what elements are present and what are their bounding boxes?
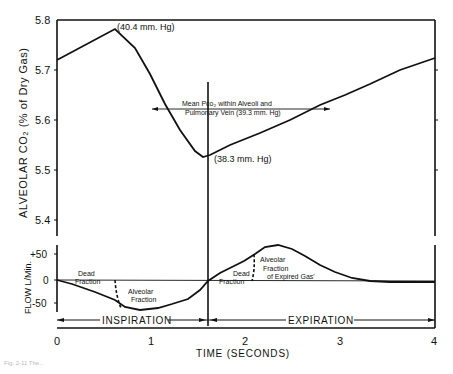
expiration-label: EXPIRATION (288, 315, 354, 326)
ytick-5.8: 5.8 (35, 14, 50, 26)
xtick-4: 4 (431, 335, 437, 347)
co2-flow-figure: 5.8 5.7 5.6 5.5 5.4 +50 0 -50 ALVEOLAR C… (0, 0, 453, 374)
trough-annotation: (38.3 mm. Hg) (214, 154, 272, 164)
dead-fraction-exp-1: Dead (233, 270, 250, 277)
figure-caption: Fig. 2-11 The... (4, 360, 44, 366)
top-plot (54, 20, 438, 236)
ytick-5.6: 5.6 (35, 114, 50, 126)
ytick-plus50: +50 (30, 249, 47, 260)
co2-curve (57, 29, 435, 157)
ytick-0: 0 (43, 275, 49, 286)
xtick-2: 2 (242, 335, 248, 347)
mean-annotation-line2: Pulmonary Vein (39.3 mm. Hg) (185, 109, 281, 117)
dead-fraction-insp-2: Fraction (75, 278, 100, 285)
alveolar-fraction-insp-2: Fraction (131, 296, 156, 303)
ytick-minus50: -50 (32, 298, 47, 309)
x-axis-label: TIME (SECONDS) (196, 348, 290, 359)
xtick-1: 1 (148, 335, 154, 347)
alveolar-fraction-exp-1: Alveolar (260, 256, 286, 263)
inspiration-label: INSPIRATION (102, 315, 172, 326)
dead-fraction-exp-2: Fraction (219, 278, 244, 285)
dashed-separator-exp (252, 254, 254, 281)
xtick-3: 3 (337, 335, 343, 347)
peak-annotation: (40.4 mm. Hg) (117, 22, 175, 32)
ytick-5.5: 5.5 (35, 164, 50, 176)
alveolar-fraction-exp-3: of Expired Gas' (267, 273, 315, 281)
y-axis-label-flow: FLOW L/Min. (23, 261, 33, 314)
flow-curve (57, 245, 435, 310)
ytick-5.7: 5.7 (35, 64, 50, 76)
xtick-0: 0 (54, 335, 60, 347)
y-axis-label-co2: ALVEOLAR CO₂ (% of Dry Gas) (17, 48, 29, 218)
dead-fraction-insp-1: Dead (78, 270, 95, 277)
ytick-5.4: 5.4 (35, 214, 50, 226)
alveolar-fraction-insp-1: Alveolar (128, 288, 154, 295)
alveolar-fraction-exp-2: Fraction (263, 265, 288, 272)
mean-annotation-line1: Mean Pco₂ within Alveoli and (182, 100, 272, 107)
